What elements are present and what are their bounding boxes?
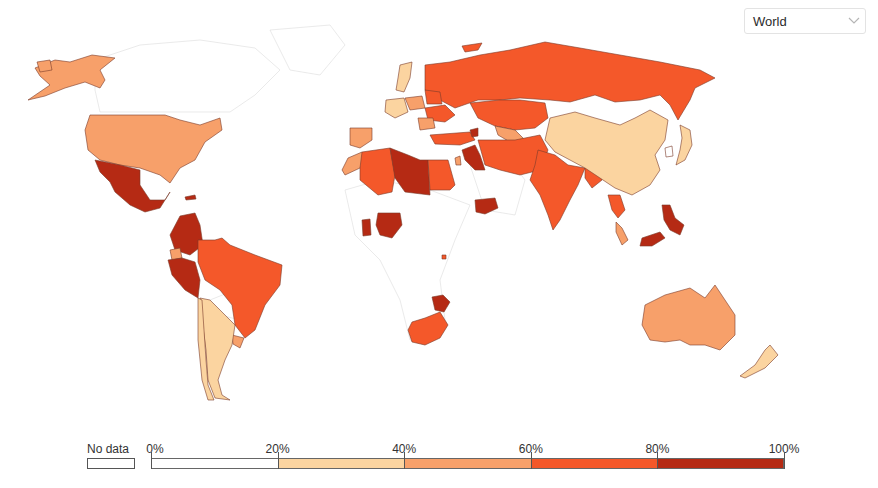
country-zimbabwe[interactable]: Rwanda xyxy=(432,295,450,312)
country-kazakhstan[interactable]: Kazakhstan xyxy=(470,100,548,130)
country-cuba[interactable]: Cuba xyxy=(185,195,196,200)
region-selector-value: World xyxy=(753,14,843,29)
country-uruguay[interactable]: Uruguay xyxy=(232,335,244,348)
country-korea[interactable]: Mongolia xyxy=(665,146,673,157)
legend-tick xyxy=(784,452,785,469)
country-sweden[interactable]: Sweden xyxy=(396,62,412,92)
country-egypt[interactable]: Egypt xyxy=(428,160,455,190)
legend-tick xyxy=(404,452,405,469)
country-ghana[interactable]: Yemen xyxy=(362,219,371,236)
country-canada[interactable] xyxy=(95,40,280,112)
country-peru[interactable]: Peru xyxy=(168,258,200,298)
country-rwanda[interactable]: Nigeria xyxy=(442,255,446,259)
country-romania[interactable]: Romania xyxy=(418,118,435,130)
country-japan[interactable]: Korea xyxy=(676,125,692,165)
world-choropleth-map: Alaska (United States) Alaska (United St… xyxy=(0,0,878,430)
map-legend: No data 0%20%40%60%80%100% xyxy=(0,440,878,488)
country-philippines[interactable]: Malaysia xyxy=(662,205,684,235)
country-new-zealand[interactable]: Australia xyxy=(740,345,778,378)
country-poland[interactable]: Poland xyxy=(405,96,425,110)
country-germany[interactable]: Germany xyxy=(385,98,408,118)
country-alaska-west[interactable]: Alaska (United States) xyxy=(37,60,52,72)
legend-tick xyxy=(151,452,152,469)
legend-tick xyxy=(531,452,532,469)
legend-bin-0[interactable] xyxy=(151,458,278,469)
country-israel[interactable]: Israel xyxy=(455,156,461,165)
legend-bin-3[interactable] xyxy=(531,458,658,469)
legend-no-data-label: No data xyxy=(87,442,129,456)
country-thailand[interactable]: Japan xyxy=(608,195,625,218)
legend-no-data-swatch xyxy=(87,458,135,469)
chevron-down-icon xyxy=(843,9,865,33)
country-greenland[interactable] xyxy=(270,25,345,75)
country-malaysia[interactable]: Thailand xyxy=(616,222,628,245)
country-indonesia[interactable]: Philippines xyxy=(640,232,665,246)
country-australia[interactable]: South Africa xyxy=(642,285,735,350)
country-spain[interactable]: Spain xyxy=(350,128,372,148)
legend-tick xyxy=(278,452,279,469)
legend-bin-1[interactable] xyxy=(278,458,405,469)
country-africa-nodata[interactable] xyxy=(345,180,470,345)
legend-bin-2[interactable] xyxy=(404,458,531,469)
legend-tick xyxy=(657,452,658,469)
country-belarus[interactable]: Belarus xyxy=(425,90,442,104)
country-turkey[interactable]: Turkey xyxy=(430,132,475,145)
country-russia[interactable]: Russia xyxy=(425,42,715,120)
legend-bin-4[interactable] xyxy=(657,458,784,469)
legend-tick-label: 0% xyxy=(146,442,163,456)
region-selector-dropdown[interactable]: World xyxy=(744,8,866,34)
country-russia-north-island[interactable]: Russia xyxy=(462,43,482,52)
